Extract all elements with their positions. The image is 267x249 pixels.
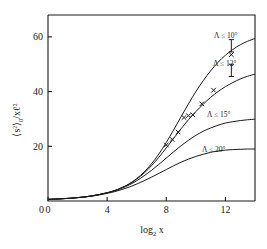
- chart-canvas: 04812 2040600 Λ ≤ 10°Λ ≤ 12°Λ ≤ 15°Λ ≤ 2…: [0, 0, 267, 249]
- curve-label-2: Λ ≤ 15°: [207, 110, 231, 119]
- curve-2: [48, 119, 255, 199]
- axes-frame: [48, 15, 255, 201]
- x-tick-label: 8: [164, 204, 169, 215]
- x-axis-ticks: 04812: [46, 197, 231, 215]
- y-tick-label: 60: [33, 31, 43, 42]
- curve-label-1: Λ ≤ 12°: [213, 59, 237, 68]
- curve-3: [48, 149, 255, 199]
- frame-top-right: [48, 15, 255, 201]
- y-tick-label: 40: [33, 86, 43, 97]
- origin-label: 0: [39, 204, 44, 215]
- data-marker: [176, 130, 181, 135]
- data-marker: [191, 113, 196, 118]
- curve-label-3: Λ ≤ 20°: [202, 145, 226, 154]
- curve-1: [48, 74, 255, 199]
- data-marker: [186, 113, 191, 118]
- curve-label-0: Λ ≤ 10°: [214, 31, 238, 40]
- y-axis-ticks: 2040600: [33, 31, 52, 215]
- data-marker: [182, 115, 187, 120]
- svg-text:⟨s2⟩0/xℓ2: ⟨s2⟩0/xℓ2: [11, 103, 24, 136]
- y-tick-label: 20: [33, 141, 43, 152]
- x-axis-label: log2 x: [140, 224, 164, 237]
- axis-lines: [48, 15, 255, 201]
- error-bar: [229, 40, 234, 52]
- x-tick-label: 0: [46, 204, 51, 215]
- y-axis-label: ⟨s2⟩0/xℓ2: [11, 103, 24, 136]
- data-marker: [211, 88, 216, 93]
- x-tick-label: 12: [220, 204, 230, 215]
- x-tick-label: 4: [105, 204, 110, 215]
- data-marker: [229, 52, 234, 57]
- figure-container: 04812 2040600 Λ ≤ 10°Λ ≤ 12°Λ ≤ 15°Λ ≤ 2…: [0, 0, 267, 249]
